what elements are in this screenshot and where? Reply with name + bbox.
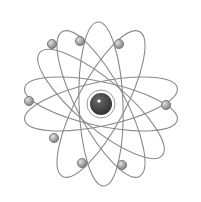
electron — [49, 133, 58, 142]
nucleus — [87, 90, 115, 118]
atom-graphic — [0, 0, 201, 202]
electron — [47, 39, 56, 48]
electron — [114, 39, 123, 48]
atom-illustration — [0, 0, 201, 202]
nucleus-core — [90, 93, 112, 115]
electron — [75, 36, 84, 45]
electron — [117, 160, 126, 169]
electron — [24, 96, 33, 105]
nucleus-highlight — [97, 99, 100, 102]
electron — [161, 100, 170, 109]
electron — [77, 158, 86, 167]
